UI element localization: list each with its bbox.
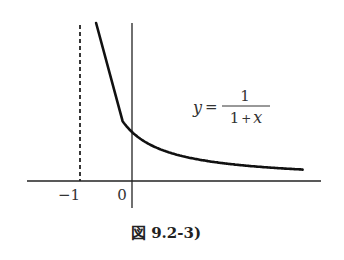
curve — [96, 23, 303, 170]
figure-caption: 図 9.2-3) — [131, 224, 201, 242]
equation-lhs: y — [192, 98, 203, 117]
equation-denominator: 1+x — [230, 108, 263, 127]
x-tick-zero: 0 — [117, 186, 127, 204]
function-graph: −1 0 y = 1 1+x 図 9.2-3) — [0, 0, 344, 260]
x-tick-minus-one: −1 — [58, 186, 80, 204]
equation-equals: = — [205, 98, 218, 116]
equation-numerator: 1 — [240, 87, 250, 105]
